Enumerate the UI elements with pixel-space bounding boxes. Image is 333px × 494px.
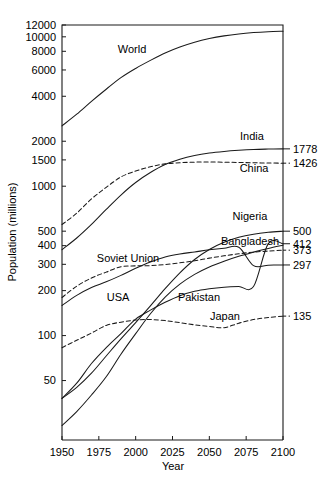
x-axis-tick-marks [62,436,283,440]
y-tick-label: 500 [38,225,56,237]
series-line-world [62,31,283,126]
y-axis-title: Population (millions) [6,182,18,281]
end-value-label-soviet-union: 373 [293,244,311,256]
population-projection-chart: 1950197520002025205020752100 12000100008… [0,0,333,494]
series-end-value-labels: 17781426500412373297135 [293,143,317,322]
x-tick-label: 2100 [271,446,295,458]
y-axis-tick-labels: 1200010000800060004000200015001000500400… [25,19,56,387]
y-tick-label: 12000 [25,19,56,31]
y-tick-label: 400 [38,239,56,251]
series-label-soviet-union: Soviet Union [97,252,159,264]
end-value-label-usa: 297 [293,259,311,271]
series-label-world: World [118,43,147,55]
x-tick-label: 2075 [234,446,258,458]
series-label-bangladesh: Bangladesh [221,235,279,247]
x-axis-tick-labels: 1950197520002025205020752100 [50,446,295,458]
axis-frame [62,25,283,440]
end-value-label-japan: 135 [293,310,311,322]
series-label-usa: USA [107,291,130,303]
y-tick-label: 6000 [32,64,56,76]
y-axis-tick-marks [62,25,66,381]
series-label-india: India [240,130,265,142]
end-value-label-china: 1426 [293,157,317,169]
series-label-nigeria: Nigeria [233,210,269,222]
end-value-label-nigeria: 500 [293,225,311,237]
end-leader-lines-group [283,149,290,316]
series-lines-group [62,31,283,425]
y-tick-label: 300 [38,258,56,270]
y-tick-label: 100 [38,329,56,341]
end-value-label-india: 1778 [293,143,317,155]
series-line-nigeria [62,231,283,398]
y-tick-label: 4000 [32,90,56,102]
series-label-pakistan: Pakistan [178,291,220,303]
series-line-pakistan [62,245,283,425]
plot-frame [62,25,283,440]
x-tick-label: 2050 [197,446,221,458]
series-name-labels: WorldIndiaChinaNigeriaBangladeshSoviet U… [97,43,279,322]
series-label-japan: Japan [210,310,240,322]
y-tick-label: 50 [44,374,56,386]
y-tick-label: 2000 [32,135,56,147]
y-tick-label: 1500 [32,154,56,166]
series-line-bangladesh [62,240,283,398]
y-tick-label: 10000 [25,31,56,43]
y-tick-label: 8000 [32,45,56,57]
series-line-japan [62,316,283,348]
series-label-china: China [240,162,270,174]
series-line-usa [62,246,283,305]
x-tick-label: 2000 [123,446,147,458]
x-tick-label: 1950 [50,446,74,458]
x-axis-title: Year [162,460,185,472]
y-tick-label: 1000 [32,180,56,192]
chart-canvas: 1950197520002025205020752100 12000100008… [0,0,333,494]
x-tick-label: 1975 [87,446,111,458]
y-tick-label: 200 [38,284,56,296]
x-tick-label: 2025 [160,446,184,458]
